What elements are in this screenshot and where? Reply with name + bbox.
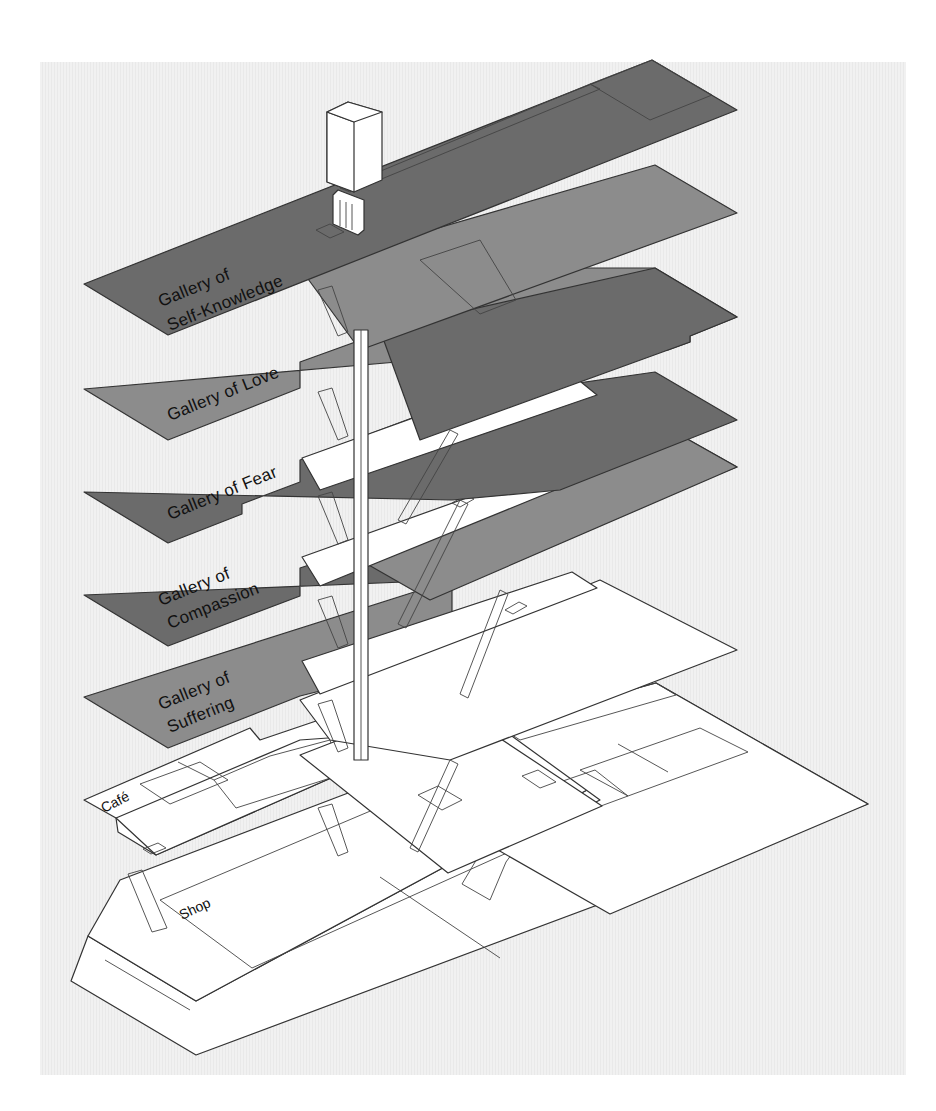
axonometric-diagram: Shop Café Gallery of Suffering Gal: [0, 0, 936, 1111]
